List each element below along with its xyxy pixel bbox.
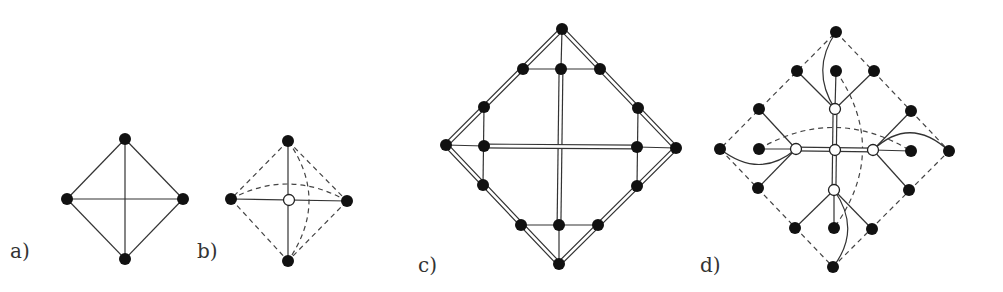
panel-d-label: d) bbox=[700, 253, 721, 277]
panel-a: a) bbox=[10, 133, 189, 265]
panel-a-edges bbox=[67, 139, 183, 259]
panel-b-label: b) bbox=[197, 239, 218, 263]
panel-a-label: a) bbox=[10, 239, 30, 263]
figure-canvas: a) b) bbox=[0, 0, 1003, 292]
panel-b-hollow-node bbox=[284, 195, 295, 206]
panel-d: d) bbox=[700, 26, 955, 277]
panel-b: b) bbox=[197, 135, 353, 267]
panel-c-label: c) bbox=[418, 253, 437, 277]
panel-c: c) bbox=[418, 23, 682, 277]
